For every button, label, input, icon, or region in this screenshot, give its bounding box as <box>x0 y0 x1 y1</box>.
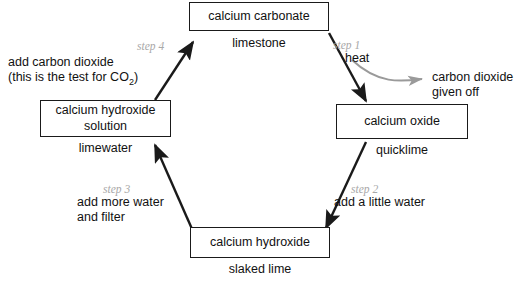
step-3-action-line2: and filter <box>77 210 125 224</box>
node-calcium-hydroxide-title: calcium hydroxide <box>210 235 310 250</box>
node-calcium-oxide[interactable]: calcium oxide <box>336 104 468 139</box>
node-calcium-carbonate[interactable]: calcium carbonate <box>189 2 329 31</box>
node-calcium-hydroxide-common: slaked lime <box>190 262 330 276</box>
node-calcium-carbonate-common: limestone <box>189 36 329 50</box>
node-calcium-oxide-title: calcium oxide <box>364 114 440 129</box>
node-calcium-hydroxide-solution-title-line2: solution <box>84 119 127 134</box>
node-calcium-hydroxide-solution-title-line1: calcium hydroxide <box>55 103 155 118</box>
node-calcium-oxide-common: quicklime <box>336 143 468 157</box>
node-calcium-hydroxide-solution-common: limewater <box>40 141 171 155</box>
node-calcium-hydroxide-solution[interactable]: calcium hydroxide solution <box>40 100 171 137</box>
step-2-action: add a little water <box>334 195 425 210</box>
carbon-dioxide-given-off-line1: carbon dioxide <box>432 70 513 84</box>
step-4-action-line2-post: ) <box>134 70 138 84</box>
step-3-action: add more water and filter <box>77 195 164 226</box>
step-3-action-line1: add more water <box>77 195 164 209</box>
step-3-label: step 3 <box>103 183 130 195</box>
step-4-action-line2: (this is the test for CO2) <box>8 70 138 84</box>
carbon-dioxide-given-off-label: carbon dioxide given off <box>432 70 513 101</box>
step-2-label: step 2 <box>351 183 378 195</box>
carbon-dioxide-given-off-line2: given off <box>432 85 479 99</box>
node-calcium-hydroxide[interactable]: calcium hydroxide <box>190 227 330 258</box>
step-1-label: step 1 <box>333 39 360 51</box>
step-4-action: add carbon dioxide (this is the test for… <box>8 55 138 88</box>
node-calcium-carbonate-title: calcium carbonate <box>208 9 309 24</box>
step-4-action-line1: add carbon dioxide <box>8 55 114 69</box>
step-1-action: heat <box>345 51 369 66</box>
limestone-cycle-diagram: calcium carbonate limestone calcium oxid… <box>0 0 531 283</box>
step-4-action-line2-pre: (this is the test for CO <box>8 70 129 84</box>
step-4-label: step 4 <box>137 40 164 52</box>
